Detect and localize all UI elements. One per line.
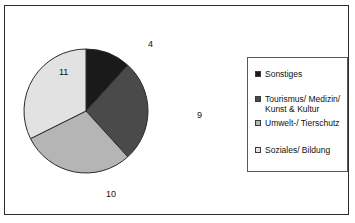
pie-data-label-umwelt: 10 (106, 189, 116, 199)
pie-data-label-tourismus: 9 (197, 110, 202, 120)
legend-swatch-icon (255, 71, 261, 77)
legend-item-label: Soziales/ Bildung (265, 145, 330, 155)
pie-chart (15, 31, 165, 191)
legend-item-label: Umwelt-/ Tierschutz (265, 118, 340, 128)
plot-area: 4 9 10 11 Sonstiges Tourismus/ Medizin/ … (5, 6, 348, 214)
legend-item-label: Sonstiges (265, 69, 302, 79)
pie-data-label-sonstiges: 4 (148, 39, 153, 49)
legend-item-umwelt: Umwelt-/ Tierschutz (255, 118, 340, 128)
legend-item-tourismus: Tourismus/ Medizin/ Kunst & Kultur (255, 94, 347, 114)
legend: Sonstiges Tourismus/ Medizin/ Kunst & Ku… (247, 57, 348, 172)
legend-swatch-icon (255, 147, 261, 153)
legend-item-soziales: Soziales/ Bildung (255, 145, 330, 155)
legend-swatch-icon (255, 96, 261, 102)
pie-slice-group (24, 49, 148, 173)
chart-frame: 4 9 10 11 Sonstiges Tourismus/ Medizin/ … (4, 5, 349, 215)
legend-item-sonstiges: Sonstiges (255, 69, 302, 79)
pie-data-label-soziales: 11 (59, 67, 68, 77)
legend-item-label: Tourismus/ Medizin/ Kunst & Kultur (265, 94, 347, 114)
legend-swatch-icon (255, 120, 261, 126)
